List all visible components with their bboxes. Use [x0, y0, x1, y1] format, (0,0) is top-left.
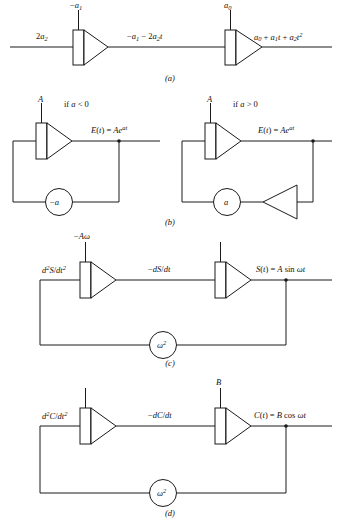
caption-a: (a)	[0, 73, 340, 83]
caption-c: (c)	[0, 358, 340, 368]
integrator-triangle-b-right	[216, 123, 241, 159]
junction-dot-b-left	[117, 139, 121, 143]
label-output-c: S(t) = A sin ωt	[256, 265, 305, 274]
integrator-1-body-c	[80, 262, 91, 298]
label-input-a: 2a2	[36, 32, 48, 42]
label-gain-c: ω2	[157, 340, 166, 349]
panel-b-schematic	[0, 95, 340, 230]
caption-b: (b)	[0, 217, 340, 227]
label-output-b-left: E(t) = Aeat	[91, 125, 127, 134]
label-ic-second-d: B	[216, 378, 221, 387]
caption-d: (d)	[0, 508, 340, 518]
integrator-body-b-right	[205, 123, 216, 159]
inverter-triangle-b-right	[263, 185, 297, 219]
integrator-2-triangle-c	[226, 262, 251, 298]
junction-dot-b-right	[311, 139, 315, 143]
label-ic-b-right: A	[207, 95, 212, 104]
panel-d: d2C/dt2 B −dC/dt C(t) = B cos ωt ω2 (d)	[0, 376, 340, 529]
panel-c-schematic	[0, 232, 340, 369]
label-gain-b-left: −a	[50, 198, 59, 207]
integrator-2-body-a	[225, 30, 236, 65]
panel-d-schematic	[0, 376, 340, 529]
label-output-b-right: E(t) = Aeat	[258, 125, 294, 134]
integrator-triangle-b-left	[47, 123, 72, 159]
integrator-1-triangle-d	[91, 408, 116, 444]
integrator-1-body-a	[73, 30, 84, 65]
label-mid-c: −dS/dt	[148, 265, 170, 274]
label-mid-d: −dC/dt	[148, 411, 172, 420]
label-output-a: a0 + a1t + a2t2	[254, 32, 302, 43]
panel-c: −Aω d2S/dt2 −dS/dt S(t) = A sin ωt ω2 (c…	[0, 232, 340, 369]
integrator-body-b-left	[36, 123, 47, 159]
label-gain-b-right: a	[224, 198, 228, 207]
panel-b: A if a < 0 E(t) = Aeat −a A if a > 0 E(t…	[0, 95, 340, 230]
panel-a: 2a2 −a1 −a1 − 2a2t a0 a0 + a1t + a2t2 (a…	[0, 0, 340, 92]
label-ic-first-a: −a1	[70, 1, 82, 11]
label-ic-second-a: a0	[224, 1, 231, 11]
integrator-1-body-d	[80, 408, 91, 444]
label-input-c: d2S/dt2	[42, 265, 66, 274]
label-condition-b-right: if a > 0	[233, 100, 258, 109]
integrator-1-triangle-c	[91, 262, 116, 298]
label-gain-d: ω2	[157, 488, 166, 497]
label-condition-b-left: if a < 0	[64, 100, 89, 109]
label-ic-b-left: A	[38, 95, 43, 104]
integrator-1-triangle-a	[84, 30, 108, 65]
label-mid-a: −a1 − 2a2t	[127, 32, 162, 42]
label-output-d: C(t) = B cos ωt	[254, 411, 306, 420]
integrator-2-triangle-d	[226, 408, 251, 444]
integrator-2-body-c	[215, 262, 226, 298]
label-ic-first-c: −Aω	[74, 232, 90, 241]
integrator-2-body-d	[215, 408, 226, 444]
label-input-d: d2C/dt2	[42, 411, 67, 420]
